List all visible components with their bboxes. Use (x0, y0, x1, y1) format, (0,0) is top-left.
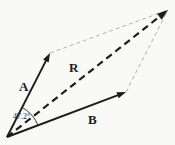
parallelogram-guide-top (50, 10, 168, 53)
resultant-r-line (7, 14, 163, 137)
parallelogram-guide-right (126, 10, 168, 92)
vector-a-line (7, 57, 48, 137)
vector-a-arrowhead (43, 53, 50, 63)
vector-a-label: A (19, 80, 28, 93)
resultant-r-arrowhead (157, 10, 168, 20)
resultant-r-label: R (69, 61, 78, 74)
vector-b-label: B (88, 113, 97, 126)
vector-b-arrowhead (116, 92, 126, 98)
angle-value-label: 47.2° (13, 112, 30, 121)
diagram-canvas: A R B 47.2° (0, 0, 175, 145)
